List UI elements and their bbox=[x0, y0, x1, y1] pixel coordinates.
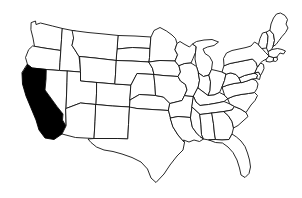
state-nm[interactable]: New Mexico bbox=[94, 105, 130, 139]
us-map-svg: WashingtonOregonCaliforniaIdahoNevadaMon… bbox=[0, 0, 302, 198]
state-ia[interactable]: Iowa bbox=[149, 61, 181, 77]
state-nd[interactable]: North Dakota bbox=[118, 36, 152, 50]
state-wy[interactable]: Wyoming bbox=[80, 57, 117, 85]
state-co[interactable]: Colorado bbox=[96, 83, 131, 108]
us-map-container: WashingtonOregonCaliforniaIdahoNevadaMon… bbox=[0, 0, 302, 198]
state-mt[interactable]: Montana bbox=[72, 31, 119, 61]
state-az[interactable]: Arizona bbox=[62, 103, 96, 139]
state-sd[interactable]: South Dakota bbox=[117, 48, 151, 63]
